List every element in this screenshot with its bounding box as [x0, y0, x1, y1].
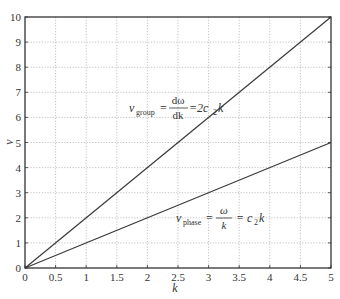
group-subscript: group [136, 108, 155, 117]
phase-k: k [259, 211, 265, 225]
x-tick-label: 0 [22, 271, 28, 283]
phase-v: v [176, 211, 182, 225]
y-tick-label: 9 [16, 36, 22, 48]
group-rhs: =2c [189, 101, 209, 115]
phase-denominator: k [222, 219, 228, 231]
group-v: v [129, 101, 135, 115]
x-tick-label: 1.5 [110, 271, 124, 283]
group-denominator: dk [173, 109, 185, 121]
y-tick-label: 6 [16, 111, 22, 123]
annotation-phase-velocity: v phase = ω k = c 2 k [176, 204, 265, 231]
group-k: k [218, 101, 224, 115]
group-equals: = [160, 101, 167, 115]
series-v-phase [25, 143, 331, 269]
y-tick-label: 8 [16, 61, 22, 73]
x-tick-label: 4.5 [294, 271, 308, 283]
line-chart: 00.511.522.533.544.55 012345678910 k v v… [0, 0, 340, 299]
y-tick-label: 1 [16, 237, 22, 249]
x-tick-label: 2 [145, 271, 151, 283]
y-tick-label: 0 [16, 262, 22, 274]
y-tick-label: 3 [16, 187, 22, 199]
x-tick-label: 4 [267, 271, 273, 283]
group-numerator: dω [172, 94, 185, 106]
y-tick-label: 5 [16, 137, 22, 149]
phase-rhs-subscript: 2 [254, 218, 258, 227]
phase-rhs: = c [236, 211, 253, 225]
x-tick-label: 0.5 [49, 271, 63, 283]
y-tick-label: 10 [10, 11, 22, 23]
group-rhs-subscript: 2 [213, 108, 217, 117]
x-tick-label: 3.5 [232, 271, 246, 283]
x-tick-label: 1 [83, 271, 89, 283]
phase-numerator: ω [220, 204, 228, 216]
y-tick-label: 4 [16, 162, 22, 174]
y-tick-label: 2 [16, 212, 22, 224]
y-axis-label: v [2, 139, 16, 145]
y-tick-label: 7 [16, 86, 22, 98]
x-tick-label: 3 [206, 271, 212, 283]
x-axis-label: k [172, 281, 178, 295]
phase-subscript: phase [183, 218, 202, 227]
x-tick-label: 5 [328, 271, 334, 283]
phase-equals: = [206, 211, 213, 225]
